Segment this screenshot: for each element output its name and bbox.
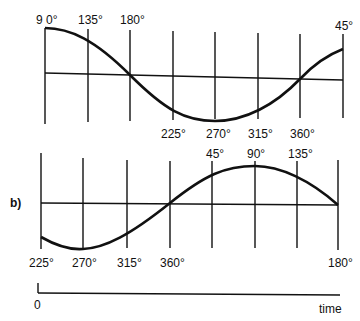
time-origin-label: 0 — [34, 299, 41, 311]
panel-a-label-90: 9 0° — [36, 14, 57, 26]
panel-b-label: b) — [10, 197, 21, 209]
panel-a-label-360: 360° — [290, 128, 315, 140]
panel-a-label-135: 135° — [78, 14, 103, 26]
panel-b-label-45: 45° — [206, 148, 224, 160]
panel-a-label-315: 315° — [248, 128, 273, 140]
panel-b-label-270: 270° — [72, 257, 97, 269]
panel-b-label-135: 135° — [288, 148, 313, 160]
time-axis — [38, 283, 340, 295]
time-axis-label: time — [319, 303, 342, 315]
panel-b-label-225: 225° — [29, 257, 54, 269]
panel-b-label-360: 360° — [160, 257, 185, 269]
panel-a-label-45: 45° — [335, 20, 353, 32]
panel-b-label-90: 90° — [247, 148, 265, 160]
panel-b-wave — [41, 166, 338, 249]
panel-a-label-225: 225° — [161, 128, 186, 140]
panel-a-label-180: 180° — [120, 14, 145, 26]
panel-b-grid — [41, 153, 338, 250]
panel-a-label-270: 270° — [206, 128, 231, 140]
panel-b-label-180: 180° — [328, 257, 353, 269]
panel-b-label-315: 315° — [117, 257, 142, 269]
